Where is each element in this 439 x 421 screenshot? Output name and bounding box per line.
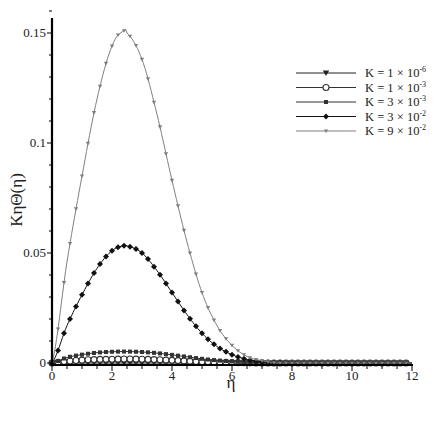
legend-item: K = 9 × 10-2 [296,123,426,138]
marker-square [56,359,60,363]
y-tick-label: 0.05 [23,245,46,260]
x-tick-label: 12 [406,368,419,383]
marker-small-triangle [98,85,102,89]
marker-circle [103,356,109,362]
marker-diamond [67,316,73,322]
marker-small-triangle [176,204,180,208]
legend-label: K = 1 × 10-3 [365,80,426,95]
marker-square [170,353,174,357]
marker-circle [323,85,329,91]
marker-diamond [55,347,61,353]
x-tick-label: 4 [169,368,176,383]
legend-label: K = 9 × 10-2 [365,123,426,138]
marker-circle [145,356,151,362]
marker-square [86,352,90,356]
marker-diamond [85,281,91,287]
marker-small-triangle [68,242,72,246]
marker-circle [67,358,73,364]
marker-circle [151,357,157,363]
marker-small-triangle [182,229,186,233]
marker-square [116,350,120,354]
marker-diamond [235,354,241,360]
marker-square [200,357,204,361]
marker-diamond [121,243,127,249]
marker-small-triangle [104,62,108,66]
marker-square [212,358,216,362]
marker-diamond [61,330,67,336]
marker-small-triangle [206,306,210,310]
marker-small-triangle [194,273,198,277]
y-tick-label: 0 [40,355,47,370]
series-line [52,29,412,363]
marker-square [324,100,328,104]
marker-square [140,350,144,354]
marker-square [152,351,156,355]
x-tick-label: 2 [109,368,116,383]
marker-diamond [73,303,79,309]
y-tick-label: 0.15 [23,25,46,40]
marker-diamond [229,352,235,358]
marker-small-triangle [188,252,192,256]
marker-small-triangle [200,291,204,295]
marker-diamond [127,244,133,250]
marker-small-triangle [152,101,156,105]
marker-square [188,355,192,359]
marker-circle [157,357,163,363]
x-tick-label: 8 [289,368,296,383]
legend-item: K = 1 × 10-6 [296,65,426,80]
marker-square [146,350,150,354]
marker-square [122,350,126,354]
marker-square [236,360,240,364]
marker-circle [91,357,97,363]
chart: 02468101200.050.10.15 η KηΘ(η) K = 1 × 1… [0,0,439,421]
marker-square [74,354,78,358]
marker-square [158,351,162,355]
marker-square [110,350,114,354]
marker-diamond [169,290,175,296]
marker-square [128,350,132,354]
marker-small-triangle [110,45,114,49]
marker-small-triangle [92,111,96,115]
marker-diamond [115,244,121,250]
marker-circle [133,356,139,362]
marker-diamond [223,349,229,355]
marker-circle [109,356,115,362]
marker-small-triangle [56,327,60,331]
marker-diamond [163,281,169,287]
marker-square [98,350,102,354]
marker-square [176,354,180,358]
marker-square [206,357,210,361]
y-axis-title: KηΘ(η) [7,173,26,227]
marker-small-triangle [62,281,66,285]
legend-item: K = 3 × 10-3 [296,94,426,109]
marker-square [92,351,96,355]
series-3 [49,243,412,366]
marker-square [164,352,168,356]
marker-small-triangle [242,353,246,357]
marker-diamond [91,270,97,276]
marker-small-triangle [80,174,84,178]
marker-diamond [133,246,139,252]
marker-circle [175,358,181,364]
marker-circle [163,357,169,363]
marker-square [68,355,72,359]
legend: K = 1 × 10-6K = 1 × 10-3K = 3 × 10-3K = … [296,65,426,138]
marker-circle [85,357,91,363]
legend-label: K = 1 × 10-6 [365,65,426,80]
marker-circle [139,356,145,362]
marker-square [230,359,234,363]
marker-small-triangle [122,29,126,33]
marker-diamond [79,292,85,298]
y-tick-label: 0.1 [30,135,46,150]
marker-small-triangle [86,142,90,146]
marker-small-triangle [158,125,162,129]
legend-label: K = 3 × 10-3 [365,94,426,109]
marker-circle [79,357,85,363]
marker-circle [73,358,79,364]
x-axis-title: η [227,373,236,392]
legend-item: K = 1 × 10-3 [296,80,426,95]
plot-area [49,29,412,366]
marker-circle [127,356,133,362]
marker-diamond [323,114,329,120]
marker-small-triangle [164,152,168,156]
